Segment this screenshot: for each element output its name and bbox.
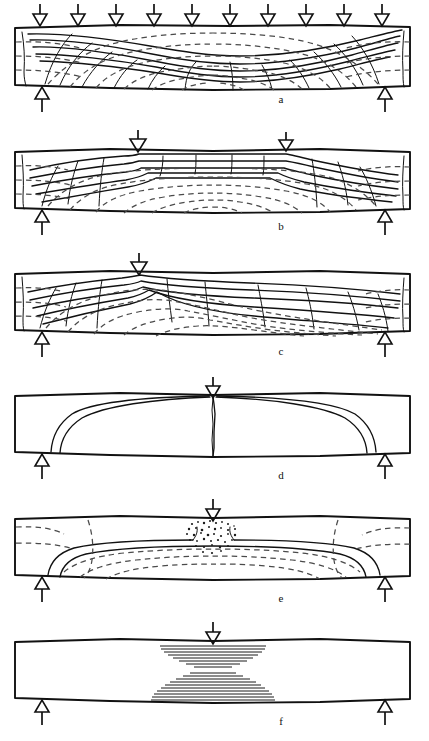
load-arrow-down-icon xyxy=(261,4,275,26)
support-arrow-up-icon xyxy=(35,577,49,602)
panel-f xyxy=(15,622,410,725)
panel-c-trajectories-dashed xyxy=(16,288,410,336)
panel-a xyxy=(15,4,410,112)
load-arrow-down-icon xyxy=(375,4,389,26)
support-arrow-up-icon xyxy=(35,210,49,235)
support-arrow-up-icon xyxy=(35,87,49,112)
support-arrow-up-icon xyxy=(35,700,49,725)
panel-d xyxy=(15,377,410,479)
support-arrow-up-icon xyxy=(378,454,392,479)
panel-b xyxy=(15,130,410,235)
support-arrow-up-icon xyxy=(378,700,392,725)
support-arrow-up-icon xyxy=(35,454,49,479)
load-arrow-down-icon xyxy=(33,4,47,26)
beam-outline-b xyxy=(15,149,410,213)
load-arrow-down-icon xyxy=(147,4,161,26)
load-arrow-down-icon xyxy=(109,4,123,26)
load-arrow-down-icon xyxy=(71,4,85,26)
panel-label-b: b xyxy=(271,220,291,232)
panel-d-cracks xyxy=(51,396,376,456)
panel-label-c: c xyxy=(271,345,291,357)
load-arrow-down-icon xyxy=(337,4,351,26)
panel-a-load-arrows xyxy=(33,4,389,26)
figure-root: a b c d e f xyxy=(0,0,429,741)
panel-a-trajectories-solid xyxy=(22,30,404,90)
panel-f-tension-zone-hatch xyxy=(151,673,275,700)
panel-e-cracks-dashed xyxy=(16,520,410,579)
panel-f-compression-crush-hatch xyxy=(160,646,266,667)
panel-label-d: d xyxy=(271,469,291,481)
support-arrow-up-icon xyxy=(378,332,392,357)
support-arrow-up-icon xyxy=(35,332,49,357)
load-arrow-down-icon xyxy=(279,132,293,151)
panel-label-a: a xyxy=(271,93,291,105)
panel-b-load-arrows xyxy=(130,130,293,152)
panel-e-cracks-solid xyxy=(48,540,380,577)
support-arrow-up-icon xyxy=(378,87,392,112)
panel-c xyxy=(15,253,410,357)
panel-label-f: f xyxy=(271,715,291,727)
load-arrow-down-icon xyxy=(299,4,313,26)
support-arrow-up-icon xyxy=(378,577,392,602)
support-arrow-up-icon xyxy=(378,210,392,235)
panel-label-e: e xyxy=(271,592,291,604)
load-arrow-down-icon xyxy=(185,4,199,26)
load-arrow-down-icon xyxy=(223,4,237,26)
beam-crack-pattern-diagram xyxy=(0,0,429,741)
panel-e xyxy=(15,499,410,602)
